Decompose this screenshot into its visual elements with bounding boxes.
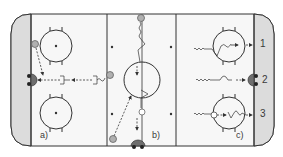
neutral-dot bbox=[170, 46, 172, 48]
row-label-3: 3 bbox=[260, 108, 266, 119]
rink-boards bbox=[11, 14, 274, 146]
neutral-dot bbox=[111, 46, 113, 48]
player-icon bbox=[139, 109, 145, 115]
row-label-1: 1 bbox=[260, 38, 266, 49]
left-end-zone bbox=[11, 14, 31, 146]
player-icon bbox=[107, 72, 114, 79]
player-icon bbox=[138, 15, 145, 22]
player-icon bbox=[211, 112, 217, 118]
player-icon bbox=[110, 136, 117, 143]
rink-diagram: a) b) c) 1 2 3 bbox=[0, 0, 283, 157]
row-label-2: 2 bbox=[262, 74, 268, 85]
neutral-dot bbox=[111, 113, 113, 115]
goalie-icon bbox=[131, 140, 145, 149]
zone-label-c: c) bbox=[236, 130, 244, 140]
zone-label-a: a) bbox=[40, 130, 48, 140]
player-icon bbox=[32, 41, 39, 48]
zone-label-b: b) bbox=[152, 130, 160, 140]
neutral-dot bbox=[170, 113, 172, 115]
